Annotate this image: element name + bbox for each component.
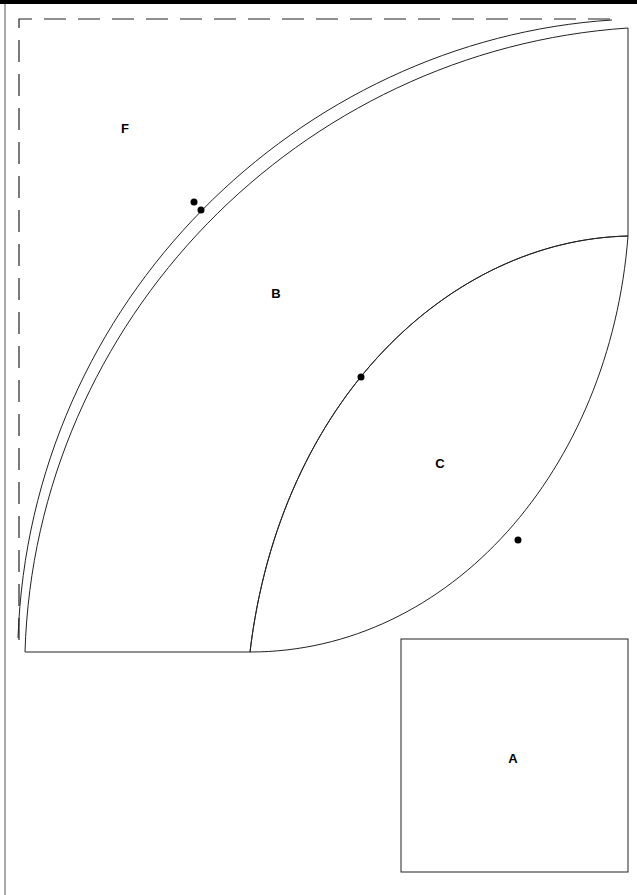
piece-b-outline xyxy=(25,28,628,652)
registration-dot xyxy=(358,374,365,381)
registration-dot xyxy=(515,537,522,544)
piece-a-label: A xyxy=(508,751,517,766)
pattern-drawing xyxy=(0,0,637,895)
registration-dot xyxy=(191,199,198,206)
piece-f-dashed-outline xyxy=(19,19,612,640)
piece-f-arc xyxy=(18,20,612,638)
piece-c-outline xyxy=(250,236,628,652)
piece-c-label: C xyxy=(435,456,444,471)
piece-b-label: B xyxy=(271,286,280,301)
piece-f-label: F xyxy=(121,121,129,136)
registration-dot xyxy=(198,207,205,214)
